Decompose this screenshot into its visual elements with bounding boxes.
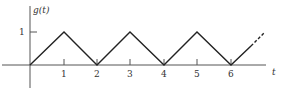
triangle-wave-continuation — [251, 33, 264, 46]
x-tick-label-1: 1 — [61, 69, 67, 79]
triangle-wave-line — [30, 32, 251, 65]
y-axis-label: g(t) — [33, 5, 50, 15]
triangle-wave-diagram: 1 1 2 3 4 5 6 g(t) t — [0, 0, 288, 92]
x-tick-label-3: 3 — [127, 69, 133, 79]
x-tick-label-6: 6 — [228, 69, 234, 79]
x-axis-label: t — [272, 67, 276, 77]
y-tick-label: 1 — [19, 27, 25, 37]
x-tick-label-2: 2 — [94, 69, 100, 79]
x-ticks — [64, 59, 231, 65]
x-tick-label-4: 4 — [161, 69, 167, 79]
x-tick-label-5: 5 — [194, 69, 200, 79]
